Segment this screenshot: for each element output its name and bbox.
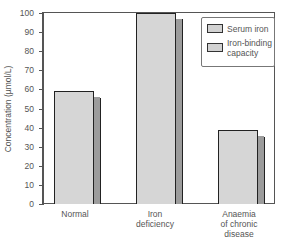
y-tick-label: 60 xyxy=(18,84,34,94)
y-tick-label: 100 xyxy=(18,8,34,18)
x-tick-label: Iron xyxy=(125,209,185,219)
x-tick-label: Normal xyxy=(45,209,105,219)
bar-bevel xyxy=(257,130,265,137)
x-tick-label: disease xyxy=(209,229,269,239)
legend-swatch-icon xyxy=(207,24,223,33)
legend-label: Iron-binding xyxy=(227,38,272,48)
y-tick-label: 70 xyxy=(18,65,34,75)
bar xyxy=(136,13,183,204)
x-tick-label: Anaemia xyxy=(209,209,269,219)
legend-swatch-icon xyxy=(207,43,223,52)
legend-label: Serum iron xyxy=(227,24,269,34)
legend-label-line2: capacity xyxy=(227,48,258,58)
y-axis-line xyxy=(42,12,44,205)
bar-side xyxy=(94,97,101,204)
bar-front xyxy=(136,13,176,204)
bar-side xyxy=(176,19,183,204)
y-tick-label: 50 xyxy=(18,104,34,114)
x-tick-label: deficiency xyxy=(125,219,185,229)
bar xyxy=(54,91,101,204)
y-tick-label: 30 xyxy=(18,142,34,152)
y-tick-label: 80 xyxy=(18,46,34,56)
bar-front xyxy=(54,91,94,204)
x-tick-label: of chronic xyxy=(209,219,269,229)
bar-front xyxy=(218,130,258,204)
y-axis-title: Concentration (µmol/L) xyxy=(3,44,15,174)
y-tick-label: 90 xyxy=(18,27,34,37)
y-tick-label: 40 xyxy=(18,123,34,133)
legend: Serum iron Iron-binding capacity xyxy=(201,17,275,67)
bar xyxy=(218,130,265,204)
y-tick-label: 0 xyxy=(18,199,34,209)
bar-bevel xyxy=(93,91,101,98)
y-tick-label: 10 xyxy=(18,180,34,190)
y-tick-label: 20 xyxy=(18,161,34,171)
bar-side xyxy=(258,136,265,204)
